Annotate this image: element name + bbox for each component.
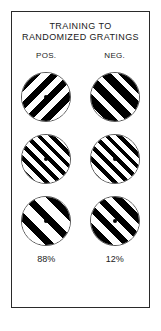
grating-disc: [21, 196, 71, 246]
figure-panel: TRAINING TO RANDOMIZED GRATINGS POS. NEG…: [11, 11, 150, 308]
grating-cell-pos-2: [20, 133, 72, 185]
grating-disc: [90, 72, 140, 122]
grating-row: [12, 66, 149, 128]
percent-value-pos: 88%: [12, 254, 81, 264]
title-line-1: TRAINING TO: [12, 21, 149, 32]
grating-cell-neg-3: [89, 195, 141, 247]
grating-row: [12, 128, 149, 190]
grating-stripes: [90, 72, 140, 122]
grating-cell-neg-2: [89, 133, 141, 185]
title-line-2: RANDOMIZED GRATINGS: [12, 32, 149, 43]
grating-cell-neg-1: [89, 71, 141, 123]
column-headers: POS. NEG.: [12, 51, 149, 60]
column-header-pos: POS.: [12, 51, 81, 60]
column-header-neg: NEG.: [81, 51, 150, 60]
page-title: TRAINING TO RANDOMIZED GRATINGS: [12, 21, 149, 43]
grating-disc: [21, 134, 71, 184]
grating-disc: [90, 134, 140, 184]
grating-cell-pos-3: [20, 195, 72, 247]
grating-cell-pos-1: [20, 71, 72, 123]
fixation-dot-icon: [113, 219, 117, 223]
percent-value-neg: 12%: [81, 254, 150, 264]
grating-disc: [90, 196, 140, 246]
fixation-dot-icon: [113, 157, 117, 161]
grating-grid: [12, 66, 149, 252]
grating-row: [12, 190, 149, 252]
percent-row: 88% 12%: [12, 254, 149, 264]
grating-disc: [21, 72, 71, 122]
